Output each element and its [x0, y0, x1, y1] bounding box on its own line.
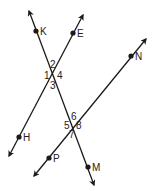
label-h: H: [23, 132, 30, 143]
label-n: N: [135, 51, 142, 62]
label-e: E: [77, 28, 84, 39]
point-m: [85, 164, 90, 169]
point-h: [16, 134, 21, 139]
angle-4: 4: [57, 70, 63, 81]
label-k: K: [40, 26, 47, 37]
point-e: [70, 30, 75, 35]
angle-2: 2: [50, 59, 56, 70]
label-m: M: [92, 162, 100, 173]
geometry-diagram: K E N H P M 1 2 3 4 5 6 7 8: [0, 0, 156, 191]
angle-7: 7: [69, 129, 75, 140]
point-n: [128, 53, 133, 58]
label-p: P: [53, 153, 60, 164]
angle-8: 8: [76, 120, 82, 131]
point-k: [33, 28, 38, 33]
point-p: [46, 155, 51, 160]
angle-3: 3: [50, 80, 56, 91]
